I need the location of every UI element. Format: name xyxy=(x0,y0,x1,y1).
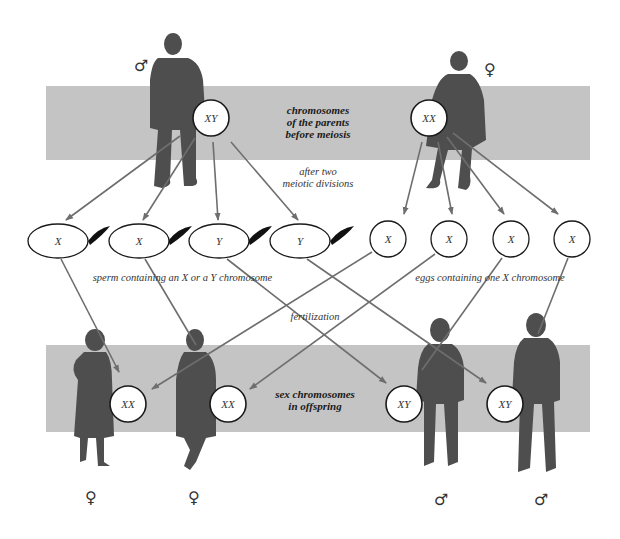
svg-text:X: X xyxy=(384,233,393,245)
father-genotype: XY xyxy=(204,112,220,124)
parents-band-label: chromosomes of the parents before meiosi… xyxy=(278,104,358,140)
sperm-4: Y xyxy=(270,224,354,258)
svg-text:XY: XY xyxy=(498,398,514,410)
father-genotype-cell: XY xyxy=(193,100,229,136)
female-symbol-icon: ♀ xyxy=(188,490,200,506)
sex-determination-diagram: XY XX X X Y Y X X xyxy=(0,0,620,539)
sperm-label: sperm containing an X or a Y chromosome xyxy=(80,272,285,284)
sperm-1: X xyxy=(28,224,110,258)
sperm-cells: X X Y Y xyxy=(28,224,354,258)
svg-text:XX: XX xyxy=(120,398,136,410)
offspring-4: XY xyxy=(487,386,523,422)
mother-genotype-cell: XX xyxy=(411,100,447,136)
svg-text:X: X xyxy=(445,233,454,245)
sperm-2: X xyxy=(109,224,192,258)
svg-text:X: X xyxy=(135,235,144,247)
svg-text:X: X xyxy=(568,233,577,245)
egg-2: X xyxy=(431,221,467,257)
eggs-label: eggs containing one X chromosome xyxy=(405,272,575,284)
svg-text:X: X xyxy=(507,233,516,245)
egg-4: X xyxy=(554,221,590,257)
svg-text:XX: XX xyxy=(220,398,236,410)
offspring-2: XX xyxy=(210,386,246,422)
egg-1: X xyxy=(370,221,406,257)
female-symbol-icon: ♀ xyxy=(484,62,496,78)
male-symbol-icon: ♂ xyxy=(534,492,548,508)
fertilization-label: fertilization xyxy=(285,311,345,323)
female-symbol-icon: ♀ xyxy=(85,490,97,506)
egg-cells: X X X X xyxy=(370,221,590,257)
svg-text:XY: XY xyxy=(397,398,413,410)
male-symbol-icon: ♂ xyxy=(434,492,448,508)
offspring-3: XY xyxy=(386,386,422,422)
offspring-band-label: sex chromosomes in offspring xyxy=(270,388,360,412)
mother-genotype: XX xyxy=(421,112,437,124)
male-symbol-icon: ♂ xyxy=(134,58,148,74)
egg-3: X xyxy=(493,221,529,257)
sperm-3: Y xyxy=(189,224,272,258)
offspring-1: XX xyxy=(110,386,146,422)
svg-text:X: X xyxy=(54,235,63,247)
meiosis-label: after two meiotic divisions xyxy=(268,166,368,190)
